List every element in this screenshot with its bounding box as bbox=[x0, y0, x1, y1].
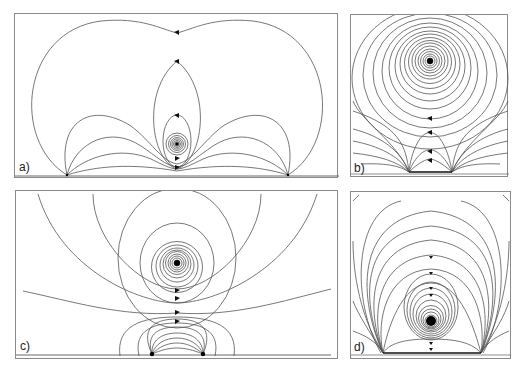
panel-label-c: c) bbox=[20, 339, 30, 353]
panel-c: c) bbox=[15, 190, 338, 359]
singularity-b bbox=[427, 58, 433, 64]
panel-label-d: d) bbox=[354, 340, 365, 354]
streamline-plot-c bbox=[16, 191, 339, 360]
cropped-running-head bbox=[150, 0, 380, 2]
singularity-c bbox=[174, 260, 180, 266]
panel-label-b: b) bbox=[354, 161, 365, 175]
streamline-plot-a bbox=[15, 14, 339, 179]
panel-b: b) bbox=[350, 14, 508, 177]
singularity-d bbox=[426, 316, 436, 326]
panel-d: d) bbox=[350, 191, 511, 359]
streamline-plot-b bbox=[351, 15, 509, 178]
streamline-plot-d bbox=[351, 192, 512, 360]
panel-label-a: a) bbox=[19, 160, 30, 174]
panel-a: a) bbox=[14, 13, 338, 178]
singularity-a bbox=[175, 142, 179, 146]
